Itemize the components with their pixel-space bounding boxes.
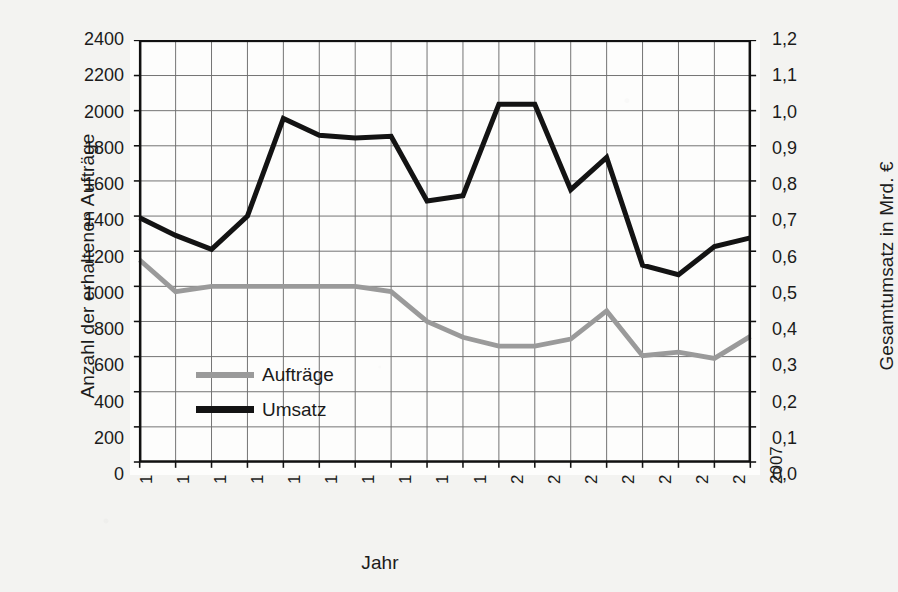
series-line-umsatz	[140, 104, 751, 274]
y-axis-left-tick-label: 0	[40, 464, 124, 485]
y-axis-left-tick-label: 1400	[40, 210, 124, 231]
y-axis-right-tick-label: 0,4	[772, 319, 856, 340]
y-axis-right-tick-label: 0,7	[772, 210, 856, 231]
legend-label-umsatz: Umsatz	[262, 399, 326, 421]
legend-item-umsatz: Umsatz	[196, 392, 396, 427]
y-axis-right-tick-label: 0,5	[772, 283, 856, 304]
y-axis-left-tick-label: 200	[40, 428, 124, 449]
y-axis-right-title: Gesamtumsatz in Mrd. €	[876, 116, 898, 416]
y-axis-left-tick-label: 1200	[40, 247, 124, 268]
x-axis-tick-label: 2007	[767, 446, 787, 484]
y-axis-right-tick-label: 0,6	[772, 247, 856, 268]
y-axis-left-tick-label: 600	[40, 355, 124, 376]
y-axis-left-tick-label: 1800	[40, 138, 124, 159]
y-axis-right-tick-label: 1,0	[772, 102, 856, 123]
y-axis-right-tick-label: 0,2	[772, 392, 856, 413]
legend-swatch-auftraege	[196, 372, 254, 378]
y-axis-left-tick-label: 800	[40, 319, 124, 340]
y-axis-left-tick-label: 2400	[40, 29, 124, 50]
x-axis-title: Jahr	[0, 552, 760, 574]
series-line-auftr-ge	[140, 260, 751, 358]
chart-legend: Aufträge Umsatz	[196, 357, 396, 427]
legend-item-auftraege: Aufträge	[196, 357, 396, 392]
y-axis-left-tick-label: 2000	[40, 102, 124, 123]
y-axis-right-tick-label: 1,2	[772, 29, 856, 50]
y-axis-right-tick-label: 1,1	[772, 65, 856, 86]
y-axis-right-tick-label: 0,8	[772, 174, 856, 195]
data-series	[140, 104, 751, 358]
y-axis-left-tick-label: 1600	[40, 174, 124, 195]
y-axis-right-tick-label: 0,3	[772, 355, 856, 376]
y-axis-left-tick-label: 400	[40, 392, 124, 413]
y-axis-left-tick-label: 1000	[40, 283, 124, 304]
y-axis-right-tick-label: 0,9	[772, 138, 856, 159]
legend-label-auftraege: Aufträge	[262, 364, 334, 386]
legend-swatch-umsatz	[196, 406, 254, 413]
y-axis-left-tick-label: 2200	[40, 65, 124, 86]
